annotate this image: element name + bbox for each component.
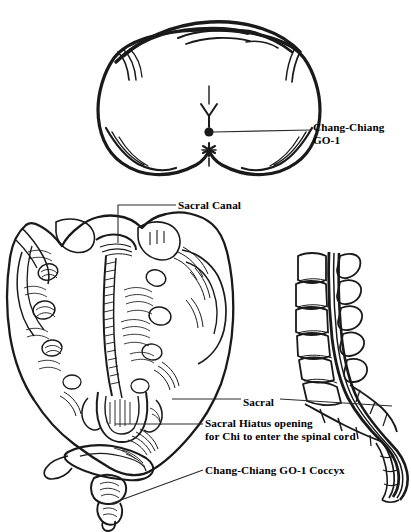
iliac-crest-hatch-right [292, 52, 300, 82]
hiatus-hatching [110, 399, 161, 427]
diagram-page: Chang-ChiangGO-1 Sacral Canal Sacral Sac… [0, 0, 411, 532]
leader-line-chang-chiang-go1 [213, 130, 311, 132]
coccyx-figure [44, 429, 158, 531]
coccyx-transverse-left [44, 456, 72, 479]
spinous-process-L1 [337, 254, 360, 278]
sacral-canal-opening [96, 235, 136, 250]
label-chang-chiang-go1-line1: Chang-Chiang [313, 121, 384, 133]
coccyx-hatching-2 [100, 482, 120, 517]
buttocks-figure [98, 22, 320, 175]
coccyx-y-marker [201, 104, 217, 116]
anatomical-illustration-canvas [0, 0, 411, 532]
sacral-foramen-right-2 [147, 305, 172, 327]
label-sacral-hiatus-line1: Sacral Hiatus opening [205, 417, 313, 429]
anus-asterisk-marker [202, 143, 216, 156]
label-chang-chiang-go1-coccyx: Chang-Chiang GO-1 Coccyx [205, 464, 345, 477]
sacral-triangle-stroke-d [246, 41, 278, 48]
lumbar-crease-mid [124, 28, 292, 56]
sacrum-figure [7, 212, 233, 475]
leader-line-coccyx [110, 470, 203, 504]
sacral-canal-shade-1 [100, 244, 131, 247]
sacral-foramen-right-1 [144, 267, 168, 288]
sacral-triangle-stroke-b [186, 38, 250, 44]
sacrum-center-hatching [121, 288, 154, 363]
label-chang-chiang-go1-line2: GO-1 [313, 134, 340, 146]
sacral-foramen-right-4 [131, 379, 149, 393]
label-sacral: Sacral [243, 396, 274, 409]
spinous-process-L2 [337, 280, 361, 304]
label-sacral-hiatus: Sacral Hiatus openingfor Chi to enter th… [205, 417, 356, 442]
sacral-posterior-seg-3 [383, 414, 387, 426]
superior-articular-process-left [56, 219, 95, 253]
label-sacral-hiatus-line2: for Chi to enter the spinal cord [205, 430, 356, 442]
acupoint-dot-go1 [204, 127, 213, 136]
label-sacral-canal: Sacral Canal [178, 199, 241, 212]
sacral-canal-shade-2 [102, 249, 132, 252]
sacral-canal-shade-3 [105, 254, 132, 256]
sacral-foramen-left-4 [63, 375, 81, 389]
label-chang-chiang-go1: Chang-ChiangGO-1 [313, 121, 384, 146]
coccygeal-tail-2 [376, 443, 387, 500]
coccygeal-tail-cap [382, 500, 399, 502]
median-sacral-crest [104, 256, 112, 396]
median-sacral-crest-2 [114, 258, 122, 398]
sacral-curve-seg-3 [356, 427, 358, 439]
sacral-posterior-seg-2 [370, 402, 375, 414]
auricular-surface-left [17, 252, 34, 336]
superior-articular-process-right [138, 222, 180, 260]
coccyx-segment-3 [97, 502, 122, 525]
right-ala-hatching [174, 247, 210, 328]
